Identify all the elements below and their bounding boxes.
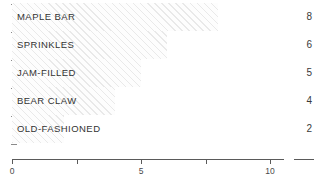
x-axis-line-tail [294, 159, 314, 160]
bar-row[interactable]: BEAR CLAW 4 [0, 87, 318, 115]
bar-category-label: OLD-FASHIONED [17, 115, 100, 143]
bar-row[interactable]: SPRINKLES 6 [0, 31, 318, 59]
y-axis-tick [11, 144, 17, 145]
plot-area: MAPLE BAR 8 SPRINKLES 6 JAM-FILLED 5 [0, 0, 318, 160]
x-axis-tick-label: 0 [10, 166, 15, 176]
bar-value-label: 2 [306, 115, 312, 143]
bar-row[interactable]: OLD-FASHIONED 2 [0, 115, 318, 143]
bar-value-label: 5 [306, 59, 312, 87]
bar-chart: MAPLE BAR 8 SPRINKLES 6 JAM-FILLED 5 [0, 0, 318, 189]
bar-row[interactable]: MAPLE BAR 8 [0, 3, 318, 31]
x-axis-tick-label: 5 [139, 166, 144, 176]
bar-category-label: BEAR CLAW [17, 87, 77, 115]
bar-row[interactable]: JAM-FILLED 5 [0, 59, 318, 87]
x-axis-tick [270, 159, 271, 164]
bar-category-label: MAPLE BAR [17, 3, 75, 31]
bar-value-label: 6 [306, 31, 312, 59]
x-axis-tick [12, 159, 13, 164]
bar-value-label: 4 [306, 87, 312, 115]
bar-category-label: JAM-FILLED [17, 59, 76, 87]
x-axis-tick [141, 159, 142, 164]
bar-category-label: SPRINKLES [17, 31, 74, 59]
x-axis-tick [206, 159, 207, 164]
x-axis-tick-label: 10 [265, 166, 274, 176]
bar-value-label: 8 [306, 3, 312, 31]
x-axis-line [12, 159, 284, 160]
x-axis: 0510 [0, 159, 318, 189]
x-axis-tick [77, 159, 78, 164]
